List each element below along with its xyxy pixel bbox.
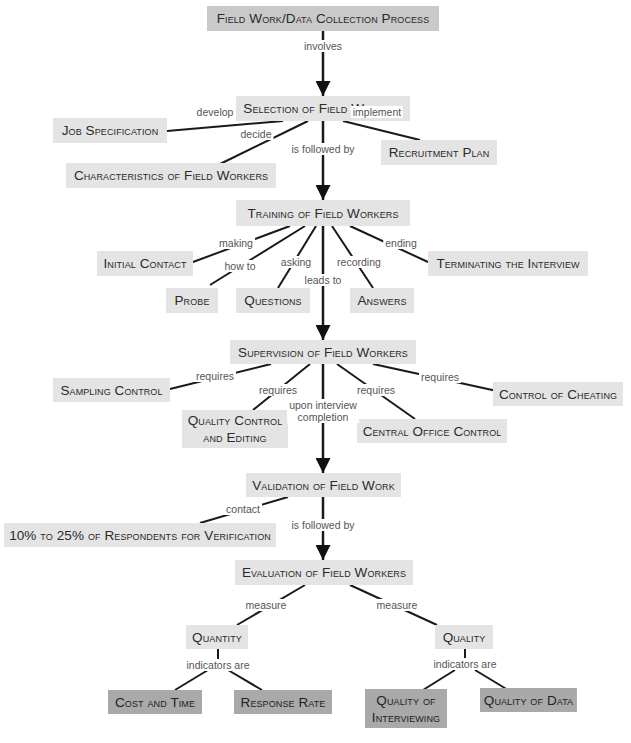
edge-label-contact: contact <box>224 503 262 515</box>
node-training: Training of Field Workers <box>236 200 410 226</box>
edge-label-requires-quality: requires <box>257 384 299 396</box>
edge-label-requires-cheating: requires <box>419 371 461 383</box>
node-characteristics: Characteristics of Field Workers <box>66 163 276 188</box>
node-answers: Answers <box>350 288 414 313</box>
node-sampling-control: Sampling Control <box>53 378 170 402</box>
edge-label-leads-to: leads to <box>303 274 344 286</box>
edge-label-implement: implement <box>351 106 403 118</box>
edge-label-indicators-quantity: indicators are <box>184 659 251 671</box>
edge-label-how-to: how to <box>223 260 258 272</box>
node-central-office-control: Central Office Control <box>357 419 507 443</box>
node-quality-control-editing: Quality Control and Editing <box>182 410 288 448</box>
node-probe: Probe <box>166 288 218 313</box>
edge-label-is-followed-by-1: is followed by <box>289 143 356 155</box>
node-cost-and-time: Cost and Time <box>108 690 202 714</box>
edge-label-is-followed-by-2: is followed by <box>289 519 356 531</box>
node-evaluation: Evaluation of Field Workers <box>235 560 413 585</box>
edge-label-making: making <box>217 237 255 249</box>
edge-label-measure-quality: measure <box>375 599 420 611</box>
node-control-of-cheating: Control of Cheating <box>493 382 623 406</box>
edge-label-recording: recording <box>335 256 383 268</box>
node-recruitment-plan: Recruitment Plan <box>381 140 497 165</box>
node-respondents-verification: 10% to 25% of Respondents for Verificati… <box>4 523 276 547</box>
node-questions: Questions <box>236 288 310 313</box>
edge-label-requires-central: requires <box>355 384 397 396</box>
node-job-specification: Job Specification <box>53 118 167 143</box>
edge-label-indicators-quality: indicators are <box>431 658 498 670</box>
edge-label-ending: ending <box>383 237 419 249</box>
node-response-rate: Response Rate <box>234 690 332 714</box>
edge-label-measure-quantity: measure <box>244 599 289 611</box>
edge-label-develop: develop <box>195 106 236 118</box>
node-quality: Quality <box>435 625 493 649</box>
node-quality-of-interviewing: Quality of Interviewing <box>365 689 447 728</box>
edge-label-upon-completion: upon interview completion <box>287 399 359 423</box>
node-quantity: Quantity <box>186 625 248 649</box>
node-quality-of-data: Quality of Data <box>480 688 577 712</box>
node-root: Field Work/Data Collection Process <box>207 6 439 31</box>
edge-label-requires-sampling: requires <box>194 370 236 382</box>
edge-label-asking: asking <box>279 256 313 268</box>
concept-map: Field Work/Data Collection Process Selec… <box>0 0 631 743</box>
edge-label-decide: decide <box>239 128 274 140</box>
node-supervision: Supervision of Field Workers <box>230 340 416 364</box>
node-terminating-interview: Terminating the Interview <box>428 251 588 276</box>
node-initial-contact: Initial Contact <box>97 251 193 276</box>
node-validation: Validation of Field Work <box>246 473 401 497</box>
edge-label-involves: involves <box>302 40 344 52</box>
